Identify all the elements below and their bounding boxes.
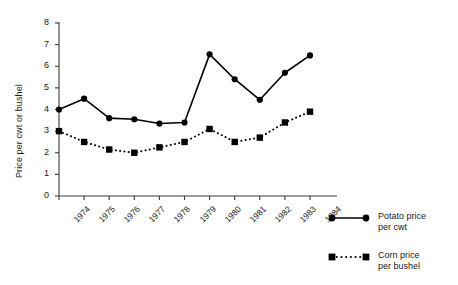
y-tick-label: 8 xyxy=(35,17,49,27)
data-point-marker xyxy=(131,150,137,156)
data-point-marker xyxy=(257,97,263,103)
series-line-corn xyxy=(59,112,310,153)
data-point-marker xyxy=(56,106,62,112)
data-point-marker xyxy=(56,128,62,134)
data-point-marker xyxy=(207,51,213,57)
legend-label-potato-line1: Potato price xyxy=(378,211,426,222)
data-point-marker xyxy=(181,119,187,125)
y-tick-label: 5 xyxy=(35,82,49,92)
legend-marker-potato-right xyxy=(363,215,370,222)
data-point-marker xyxy=(156,120,162,126)
data-point-marker xyxy=(307,52,313,58)
y-axis-title: Price per cwt or bushel xyxy=(14,84,24,178)
series-line-potato xyxy=(59,54,310,123)
data-point-marker xyxy=(307,108,313,114)
data-point-marker xyxy=(106,115,112,121)
legend-label-corn-line2: per bushel xyxy=(378,261,420,272)
legend-marker-corn-right xyxy=(363,254,370,261)
data-point-marker xyxy=(232,139,238,145)
y-tick-label: 3 xyxy=(35,125,49,135)
y-tick-label: 0 xyxy=(35,190,49,200)
y-tick-label: 7 xyxy=(35,39,49,49)
y-tick-label: 2 xyxy=(35,147,49,157)
data-point-marker xyxy=(282,70,288,76)
y-tick-label: 6 xyxy=(35,60,49,70)
data-point-marker xyxy=(156,144,162,150)
data-point-marker xyxy=(106,146,112,152)
data-point-marker xyxy=(81,96,87,102)
legend-marker-corn-left xyxy=(329,254,336,261)
y-tick-label: 4 xyxy=(35,104,49,114)
plot-area xyxy=(0,0,458,285)
data-point-marker xyxy=(206,126,212,132)
legend-label-corn-line1: Corn price xyxy=(378,250,420,261)
data-point-marker xyxy=(232,76,238,82)
chart-figure: Price per cwt or bushel 012345678 197419… xyxy=(0,0,458,285)
data-point-marker xyxy=(282,119,288,125)
data-point-marker xyxy=(257,134,263,140)
data-point-marker xyxy=(131,116,137,122)
data-point-marker xyxy=(181,139,187,145)
legend-label-potato-line2: per cwt xyxy=(378,222,407,233)
y-tick-label: 1 xyxy=(35,168,49,178)
data-point-marker xyxy=(81,139,87,145)
